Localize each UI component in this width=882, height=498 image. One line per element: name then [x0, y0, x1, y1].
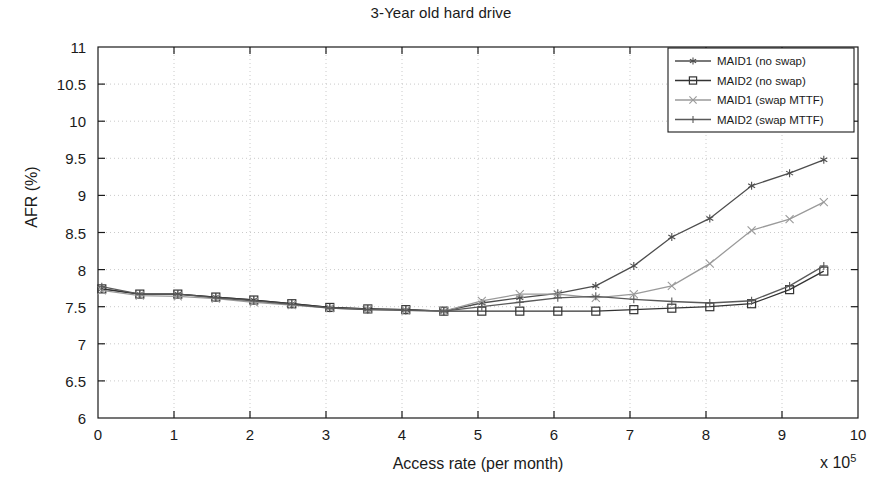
x-multiplier-base: x 10 — [820, 454, 850, 471]
x-tick-label: 0 — [78, 426, 118, 443]
y-tick-label: 7.5 — [0, 299, 86, 314]
y-tick-label: 6 — [0, 411, 86, 426]
y-tick-label: 9.5 — [0, 151, 86, 166]
legend-label: MAID1 (no swap) — [717, 55, 806, 67]
x-tick-label: 2 — [230, 426, 270, 443]
plot-canvas: MAID1 (no swap)MAID2 (no swap)MAID1 (swa… — [0, 0, 882, 498]
legend-label: MAID2 (no swap) — [717, 75, 806, 87]
x-axis-label: Access rate (per month) — [98, 455, 858, 473]
x-multiplier-exponent: 5 — [850, 452, 856, 464]
y-tick-label: 11 — [0, 40, 86, 55]
series-markers — [98, 156, 827, 315]
series-2 — [98, 267, 828, 315]
series-1 — [98, 156, 827, 315]
x-tick-label: 8 — [686, 426, 726, 443]
legend-label: MAID2 (swap MTTF) — [717, 114, 824, 126]
y-tick-label: 6.5 — [0, 373, 86, 388]
chart-legend: MAID1 (no swap)MAID2 (no swap)MAID1 (swa… — [668, 48, 854, 132]
x-tick-label: 4 — [382, 426, 422, 443]
x-tick-label: 7 — [610, 426, 650, 443]
y-tick-label: 8 — [0, 262, 86, 277]
x-tick-label: 3 — [306, 426, 346, 443]
series-markers — [98, 267, 828, 315]
x-tick-label: 1 — [154, 426, 194, 443]
y-tick-label: 9 — [0, 188, 86, 203]
data-series-layer — [98, 156, 828, 315]
x-tick-label: 9 — [762, 426, 802, 443]
legend-item-2[interactable]: MAID2 (no swap) — [675, 75, 806, 87]
y-tick-label: 7 — [0, 336, 86, 351]
chart-title: 3-Year old hard drive — [0, 4, 882, 21]
x-tick-label: 5 — [458, 426, 498, 443]
x-axis-multiplier: x 105 — [820, 452, 856, 472]
x-tick-label: 6 — [534, 426, 574, 443]
y-tick-label: 8.5 — [0, 225, 86, 240]
legend-label: MAID1 (swap MTTF) — [717, 94, 824, 106]
chart-figure: 3-Year old hard drive AFR (%) Access rat… — [0, 0, 882, 498]
y-tick-label: 10 — [0, 114, 86, 129]
y-tick-label: 10.5 — [0, 77, 86, 92]
x-tick-label: 10 — [838, 426, 878, 443]
